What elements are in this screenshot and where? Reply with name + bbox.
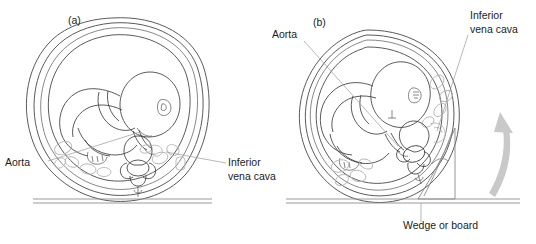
panel-b-wedge-label: Wedge or board [403, 219, 478, 231]
panel-a-ivc-label-line2: vena cava [228, 170, 276, 182]
panel-b-table-surface [286, 199, 520, 203]
panel-a-label: (a) [68, 14, 81, 26]
panel-a-abdominal-wall [26, 18, 209, 202]
panel-a-ivc-label-line1: Inferior [228, 156, 261, 168]
panel-a-aorta-label: Aorta [5, 156, 30, 168]
panel-b-label: (b) [313, 16, 326, 28]
panel-b [286, 30, 520, 222]
panel-b-aorta-label: Aorta [272, 28, 297, 40]
panel-a-leader-lines [48, 132, 226, 163]
panel-b-ivc-label-line1: Inferior [470, 9, 503, 21]
panel-b-ivc-label-line2: vena cava [470, 23, 518, 35]
tilt-direction-arrow [489, 112, 513, 197]
panel-a-bowel-loops [52, 139, 185, 177]
panel-a [26, 18, 226, 203]
anatomical-figure: (a) (b) Aorta Inferior vena cava Aorta I… [0, 0, 536, 244]
panel-a-uterus [48, 35, 190, 181]
panel-a-table-surface [33, 199, 212, 203]
panel-b-wedge [418, 128, 455, 199]
figure-root: (a) (b) Aorta Inferior vena cava Aorta I… [0, 0, 536, 244]
